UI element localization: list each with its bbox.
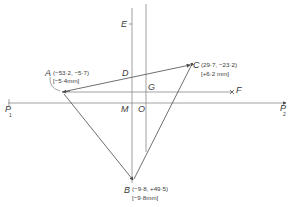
offset-point-b: [−9·8mm] xyxy=(132,194,159,201)
label-point-g: G xyxy=(148,82,155,92)
label-point-a: A xyxy=(44,68,51,78)
vector-c-b xyxy=(134,66,191,179)
label-point-c: C xyxy=(193,60,200,70)
offset-point-a: [−5·4mm] xyxy=(53,77,80,84)
label-point-o: O xyxy=(138,104,145,114)
coords-point-c: (29·7, −23·2) xyxy=(201,61,237,68)
label-point-m: M xyxy=(121,104,129,114)
label-p2-sub: 2 xyxy=(283,111,286,117)
diagram-canvas: E D G M O F P 1 P 2 A (−53·2, −5·7) [−5·… xyxy=(0,0,294,207)
coords-point-b: (−9·8, +49·5) xyxy=(132,185,168,192)
label-p1-sub: 1 xyxy=(9,112,12,118)
coords-point-a: (−53·2, −5·7) xyxy=(53,69,89,76)
label-point-d: D xyxy=(122,68,129,78)
label-point-f: F xyxy=(236,85,242,95)
label-point-b: B xyxy=(124,185,130,195)
label-point-e: E xyxy=(121,19,128,29)
offset-point-c: [+6·2 mm] xyxy=(201,70,229,77)
